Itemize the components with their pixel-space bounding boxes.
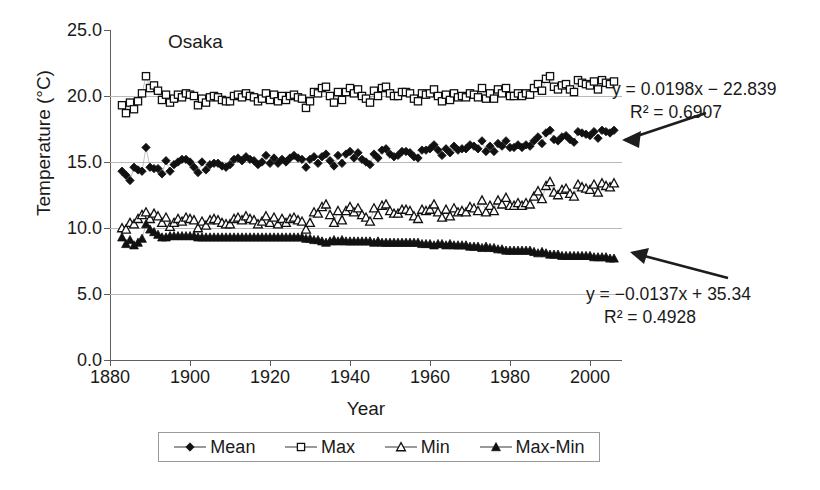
diamond-filled-icon xyxy=(173,440,207,454)
series-min xyxy=(118,177,619,233)
x-axis-line xyxy=(110,360,622,361)
arrow-to-maxmin-series xyxy=(630,248,728,278)
x-tickmark xyxy=(510,360,511,366)
y-tick-label: 15.0 xyxy=(40,153,102,171)
series-max xyxy=(118,73,617,117)
maxmin-trend-r2-text: R² = 0.4928 xyxy=(586,306,751,329)
temperature-trend-chart: Temperature (°C) 0.05.010.015.020.025.0 … xyxy=(0,0,820,490)
triangle-open-icon xyxy=(384,440,418,454)
x-tick-label: 1900 xyxy=(155,368,225,386)
legend-item-max[interactable]: Max xyxy=(284,437,355,458)
y-tick-label: 5.0 xyxy=(40,285,102,303)
mean-trend-r2-text: R² = 0.6907 xyxy=(612,101,776,124)
legend-item-label: Max-Min xyxy=(516,437,585,458)
x-axis-label: Year xyxy=(110,398,622,420)
x-tickmark xyxy=(350,360,351,366)
legend-item-label: Min xyxy=(421,437,450,458)
legend-item-label: Max xyxy=(321,437,355,458)
series-mean xyxy=(118,126,618,185)
legend-item-max-min[interactable]: Max-Min xyxy=(479,437,585,458)
x-tick-label: 1880 xyxy=(75,368,145,386)
legend-item-min[interactable]: Min xyxy=(384,437,450,458)
maxmin-trend-equation-annotation: y = −0.0137x + 35.34 R² = 0.4928 xyxy=(586,283,751,329)
y-tick-label: 25.0 xyxy=(40,21,102,39)
chart-legend: MeanMaxMinMax-Min xyxy=(158,432,600,462)
x-tickmark xyxy=(590,360,591,366)
data-series-layer xyxy=(110,30,622,360)
legend-item-label: Mean xyxy=(210,437,255,458)
mean-trend-equation-text: y = 0.0198x − 22.839 xyxy=(612,79,776,99)
mean-trend-equation-annotation: y = 0.0198x − 22.839 R² = 0.6907 xyxy=(612,78,776,124)
x-tick-label: 1960 xyxy=(395,368,465,386)
legend-item-mean[interactable]: Mean xyxy=(173,437,255,458)
plot-area xyxy=(110,30,622,360)
x-tickmark xyxy=(430,360,431,366)
x-tickmark xyxy=(190,360,191,366)
series-max-min xyxy=(118,220,619,262)
maxmin-trend-equation-text: y = −0.0137x + 35.34 xyxy=(586,284,751,304)
x-tickmark xyxy=(270,360,271,366)
x-tick-label: 1940 xyxy=(315,368,385,386)
y-tick-label: 10.0 xyxy=(40,219,102,237)
y-tick-label: 20.0 xyxy=(40,87,102,105)
x-tick-label: 1920 xyxy=(235,368,305,386)
x-axis-tick-labels: 1880190019201940196019802000 xyxy=(0,368,820,394)
chart-title: Osaka xyxy=(168,31,223,53)
x-tickmark xyxy=(110,360,111,366)
y-axis-tick-labels: 0.05.010.015.020.025.0 xyxy=(36,0,102,380)
x-tick-label: 1980 xyxy=(475,368,545,386)
square-open-icon xyxy=(284,440,318,454)
triangle-filled-icon xyxy=(479,440,513,454)
x-tick-label: 2000 xyxy=(555,368,625,386)
